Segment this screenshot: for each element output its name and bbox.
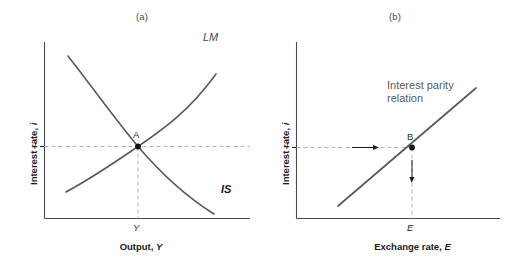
panel-a-y-axis-label: Interest rate, i xyxy=(28,123,39,185)
figure-canvas xyxy=(0,0,519,269)
panel-b-y-axis-label: Interest rate, i xyxy=(280,123,291,185)
equilibrium-point-b xyxy=(409,145,415,151)
panel-b-y-axis-label-var: i xyxy=(280,123,291,126)
is-curve xyxy=(66,74,216,192)
panel-b-x-axis-label-var: E xyxy=(444,241,450,252)
panel-a-plot xyxy=(40,42,250,219)
panel-b-plot xyxy=(292,42,500,219)
panel-a-x-axis-label-text: Output, xyxy=(120,241,156,252)
is-curve-label: IS xyxy=(221,183,231,195)
panel-a-x-axis-label-var: Y xyxy=(156,241,162,252)
panel-a-x-tick-label: Y xyxy=(133,222,139,233)
panel-b-x-axis-label-text: Exchange rate, xyxy=(374,241,444,252)
panel-b-x-axis-label: Exchange rate, E xyxy=(340,241,485,252)
economics-figure: (a) (b) Output, Y Exchange rate, E Inter… xyxy=(0,0,519,269)
panel-a-y-axis-label-text: Interest rate, xyxy=(28,125,39,185)
lm-curve xyxy=(68,56,214,214)
equilibrium-point-a-label: A xyxy=(133,129,139,140)
lm-curve-label: LM xyxy=(203,31,218,43)
equilibrium-point-a xyxy=(135,144,141,150)
panel-a-title: (a) xyxy=(136,11,148,22)
equilibrium-point-b-label: B xyxy=(407,131,413,142)
panel-b-x-tick-label: E xyxy=(407,222,413,233)
panel-b-y-tick-label: i xyxy=(286,140,288,151)
panel-a-x-axis-label: Output, Y xyxy=(95,241,187,252)
panel-b-y-axis-label-text: Interest rate, xyxy=(280,125,291,185)
panel-b-title: (b) xyxy=(389,11,401,22)
interest-parity-annotation: Interest parity relation xyxy=(387,79,454,105)
panel-a-y-tick-label: i xyxy=(34,140,36,151)
panel-a-y-axis-label-var: i xyxy=(28,123,39,126)
